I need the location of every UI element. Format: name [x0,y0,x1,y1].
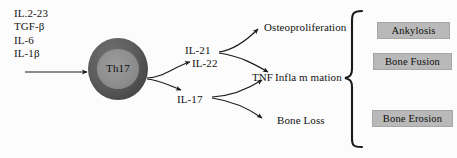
arrow-il21-to-osteoproliferation [219,29,258,52]
outcome-box-ankylosis: Ankylosis [377,22,450,39]
arrow-il17-to-inflammation [212,80,262,97]
outcome-box-bone-erosion: Bone Erosion [372,110,453,127]
outcome-box-bone-fusion: Bone Fusion [373,53,452,70]
arrow-il21-to-inflammation [219,53,268,72]
outcome-brace [345,11,362,147]
pathway-diagram: IL.2-23 TGF-β IL-6 IL-1β Th17 IL-21 IL-2… [0,0,457,158]
arrow-th17-to-il17 [147,79,181,90]
arrow-th17-to-il22 [147,62,190,78]
arrow-il17-to-bone-loss [212,98,262,118]
